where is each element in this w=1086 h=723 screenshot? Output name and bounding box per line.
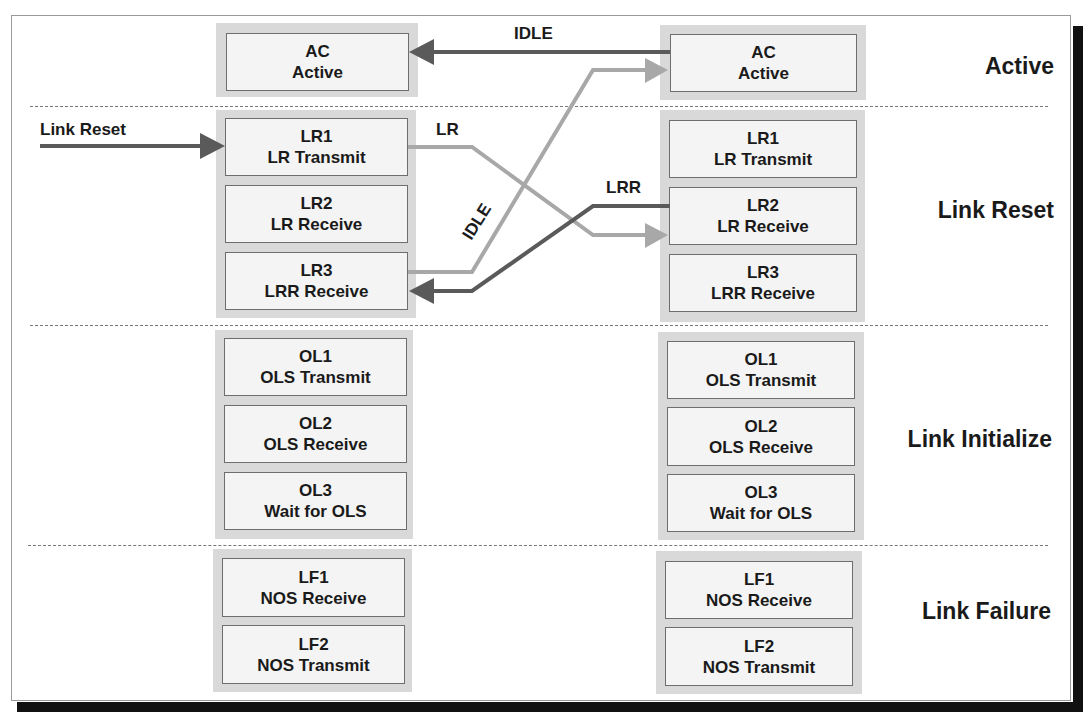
frame-shadow-right [1073, 26, 1083, 712]
state-code: OL1 [299, 346, 332, 367]
state-name: LR Transmit [267, 147, 365, 168]
state-name: OLS Transmit [260, 367, 371, 388]
state-code: LR2 [300, 193, 332, 214]
right-state-ol3: OL3 Wait for OLS [667, 474, 855, 532]
right-state-lf1: LF1 NOS Receive [665, 561, 853, 619]
state-code: LF2 [298, 634, 328, 655]
left-state-ol3: OL3 Wait for OLS [224, 472, 407, 530]
state-name: Wait for OLS [264, 501, 366, 522]
state-name: NOS Receive [706, 590, 812, 611]
left-state-lr1: LR1 LR Transmit [225, 118, 408, 176]
state-code: OL3 [744, 482, 777, 503]
left-state-lf1: LF1 NOS Receive [222, 558, 405, 617]
state-code: OL2 [299, 413, 332, 434]
divider-linkreset-linkinit [30, 325, 1048, 326]
right-state-ol1: OL1 OLS Transmit [667, 341, 855, 399]
section-label-active: Active [985, 53, 1054, 80]
section-label-link-initialize: Link Initialize [908, 426, 1052, 453]
state-code: AC [751, 42, 776, 63]
state-name: Active [738, 63, 789, 84]
arrow-label-link-reset: Link Reset [40, 120, 126, 140]
state-code: LR1 [300, 126, 332, 147]
right-state-lr1: LR1 LR Transmit [669, 120, 857, 178]
state-name: Wait for OLS [710, 503, 812, 524]
state-code: LR3 [300, 260, 332, 281]
right-state-lr3: LR3 LRR Receive [669, 254, 857, 312]
right-state-ac: AC Active [670, 34, 857, 92]
arrow-label-idle-top: IDLE [514, 24, 553, 44]
frame-shadow-bottom [17, 702, 1083, 712]
state-name: Active [292, 62, 343, 83]
right-state-lr2: LR2 LR Receive [669, 187, 857, 245]
left-state-lf2: LF2 NOS Transmit [222, 625, 405, 684]
state-name: NOS Transmit [703, 657, 815, 678]
state-code: LF1 [298, 567, 328, 588]
left-state-ac: AC Active [226, 33, 409, 91]
state-code: LR2 [747, 195, 779, 216]
divider-active-linkreset [30, 106, 1048, 107]
state-code: OL2 [744, 416, 777, 437]
state-code: LR1 [747, 128, 779, 149]
state-name: LR Receive [271, 214, 363, 235]
state-code: LF2 [744, 636, 774, 657]
state-name: LR Receive [717, 216, 809, 237]
section-label-link-reset: Link Reset [938, 197, 1054, 224]
state-name: OLS Transmit [706, 370, 817, 391]
state-name: NOS Transmit [257, 655, 369, 676]
state-name: LR Transmit [714, 149, 812, 170]
diagram-frame [11, 15, 1071, 701]
state-name: OLS Receive [264, 434, 368, 455]
arrow-label-lr: LR [436, 120, 459, 140]
left-state-ol2: OL2 OLS Receive [224, 405, 407, 463]
arrow-label-lrr: LRR [606, 178, 641, 198]
left-state-lr2: LR2 LR Receive [225, 185, 408, 243]
left-state-ol1: OL1 OLS Transmit [224, 338, 407, 396]
left-state-lr3: LR3 LRR Receive [225, 252, 408, 310]
state-name: LRR Receive [711, 283, 815, 304]
state-name: LRR Receive [265, 281, 369, 302]
state-name: NOS Receive [261, 588, 367, 609]
state-code: OL1 [744, 349, 777, 370]
state-code: LF1 [744, 569, 774, 590]
state-code: LR3 [747, 262, 779, 283]
state-code: AC [305, 41, 330, 62]
state-code: OL3 [299, 480, 332, 501]
right-state-ol2: OL2 OLS Receive [667, 407, 855, 466]
state-name: OLS Receive [709, 437, 813, 458]
right-state-lf2: LF2 NOS Transmit [665, 627, 853, 686]
divider-linkinit-linkfailure [28, 545, 1048, 546]
section-label-link-failure: Link Failure [922, 598, 1051, 625]
